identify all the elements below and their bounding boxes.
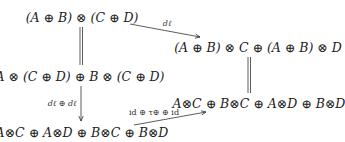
equality-right: [248, 57, 251, 93]
node-top-left: (A ⊕ B) ⊗ (C ⊕ D): [26, 10, 139, 25]
label-d-ell-sum: dℓ ⊕ dℓ: [48, 99, 77, 108]
node-top-right: (A ⊕ B) ⊗ C ⊕ (A ⊕ B) ⊗ D: [174, 40, 342, 55]
node-bottom-right: A⊗C ⊕ B⊗C ⊕ A⊗D ⊕ B⊗D: [173, 96, 345, 111]
equality-left: [80, 27, 83, 65]
label-id-tau-id: id ⊕ τ⊕ ⊕ id: [129, 108, 179, 117]
label-d-ell: dℓ: [163, 19, 171, 28]
node-mid-left: A ⊗ (C ⊕ D) ⊕ B ⊗ (C ⊕ D): [0, 69, 165, 84]
node-bottom-left: A⊗C ⊕ A⊗D ⊕ B⊗C ⊕ B⊗D: [0, 125, 168, 140]
